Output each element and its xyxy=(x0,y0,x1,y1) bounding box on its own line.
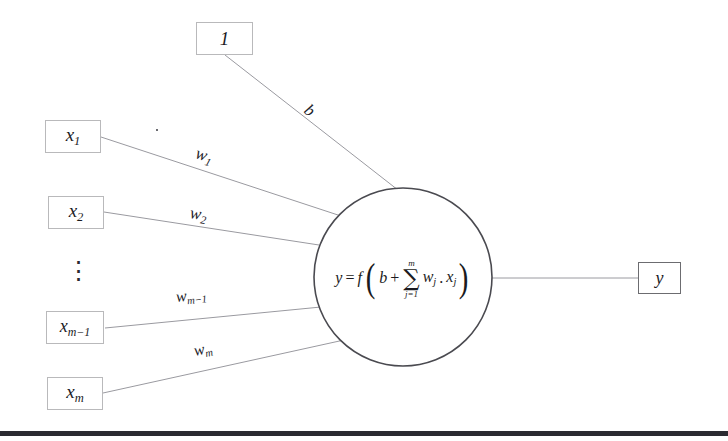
connection-edges xyxy=(0,0,728,441)
formula-open-paren: ( xyxy=(366,262,376,294)
bias-input-label: 1 xyxy=(220,29,230,48)
bottom-horizontal-rule xyxy=(0,431,728,436)
formula-plus: + xyxy=(390,270,399,286)
formula-function: f xyxy=(357,270,361,286)
input-label-xm: xm xyxy=(66,382,84,405)
neuron-diagram-canvas: 1 x1 x2 ⋮ xm−1 xm b w1 w2 wm−1 wm xyxy=(0,0,728,441)
edge-label-w2: w2 xyxy=(188,203,208,226)
stray-dot-mark xyxy=(156,129,158,131)
formula-bias-term: b xyxy=(379,270,387,286)
input-ellipsis: ⋮ xyxy=(66,258,91,283)
input-box-x1[interactable]: x1 xyxy=(45,120,101,153)
formula-equals: = xyxy=(345,270,354,286)
sigma-icon: ∑ xyxy=(403,268,419,289)
edge-label-wm-1: wm−1 xyxy=(175,285,208,307)
sum-lower-limit: j=1 xyxy=(405,290,418,299)
formula-dot: . xyxy=(439,270,443,286)
input-label-x1: x1 xyxy=(66,125,81,148)
input-box-x2[interactable]: x2 xyxy=(48,196,104,229)
edge-label-wm: wm xyxy=(192,338,214,361)
edge-bias xyxy=(225,55,398,190)
input-box-xm-1[interactable]: xm−1 xyxy=(46,311,104,344)
formula-summation: m ∑ j=1 xyxy=(403,259,419,298)
bias-input-box[interactable]: 1 xyxy=(196,22,253,55)
output-label-y: y xyxy=(656,269,664,287)
formula-output-var: y xyxy=(335,270,342,286)
edge-x2 xyxy=(104,212,319,245)
neuron-activation-formula: y = f ( b + m ∑ j=1 wj . xj ) xyxy=(305,255,501,301)
formula-close-paren: ) xyxy=(459,262,469,294)
formula-weight-term: wj xyxy=(423,269,437,288)
edge-xm-1 xyxy=(105,307,321,328)
input-box-xm[interactable]: xm xyxy=(47,377,103,410)
formula-input-term: xj xyxy=(446,269,456,288)
edge-x1 xyxy=(101,137,341,216)
edge-xm xyxy=(103,340,344,393)
input-label-xm-1: xm−1 xyxy=(60,317,91,339)
output-box-y[interactable]: y xyxy=(638,262,681,294)
input-label-x2: x2 xyxy=(69,201,84,224)
